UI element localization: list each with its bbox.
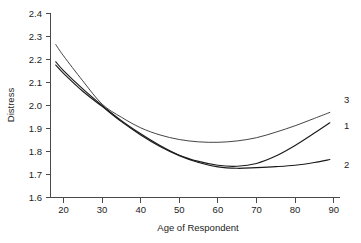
y-tick-label: 1.7 bbox=[29, 169, 42, 180]
x-tick-label: 20 bbox=[58, 204, 69, 215]
chart-figure: 2.4 2.3 2.2 2.1 2.0 1.9 1.8 1.7 1.6 20 3… bbox=[0, 0, 361, 243]
series-label-2: 2 bbox=[344, 159, 349, 170]
series-label-3: 3 bbox=[344, 94, 349, 105]
x-tick-label: 60 bbox=[213, 204, 224, 215]
series-curve-3 bbox=[56, 45, 330, 143]
x-axis-title: Age of Respondent bbox=[157, 222, 239, 233]
x-tick-labels: 20 30 40 50 60 70 80 90 bbox=[58, 204, 339, 215]
y-tick-label: 1.6 bbox=[29, 192, 42, 203]
x-tick-label: 40 bbox=[135, 204, 146, 215]
x-tick-label: 80 bbox=[290, 204, 301, 215]
x-tick-marks bbox=[64, 198, 334, 203]
y-tick-label: 2.0 bbox=[29, 100, 42, 111]
axes-group bbox=[51, 13, 341, 198]
x-tick-label: 90 bbox=[328, 204, 339, 215]
series-label-1: 1 bbox=[344, 120, 349, 131]
y-tick-labels: 2.4 2.3 2.2 2.1 2.0 1.9 1.8 1.7 1.6 bbox=[29, 8, 42, 203]
series-curve-2 bbox=[56, 65, 330, 168]
distress-by-age-line-chart: 2.4 2.3 2.2 2.1 2.0 1.9 1.8 1.7 1.6 20 3… bbox=[0, 0, 361, 243]
x-tick-label: 50 bbox=[174, 204, 185, 215]
data-curves bbox=[56, 45, 330, 169]
y-tick-label: 1.8 bbox=[29, 146, 42, 157]
y-tick-label: 2.1 bbox=[29, 77, 42, 88]
y-axis-title: Distress bbox=[5, 88, 16, 123]
y-tick-label: 2.4 bbox=[29, 8, 42, 19]
x-tick-label: 30 bbox=[97, 204, 108, 215]
y-tick-label: 2.2 bbox=[29, 54, 42, 65]
series-end-labels: 3 1 2 bbox=[344, 94, 349, 170]
y-tick-label: 1.9 bbox=[29, 123, 42, 134]
y-tick-label: 2.3 bbox=[29, 31, 42, 42]
y-tick-marks bbox=[46, 14, 51, 198]
x-tick-label: 70 bbox=[251, 204, 262, 215]
series-curve-1 bbox=[56, 62, 330, 167]
